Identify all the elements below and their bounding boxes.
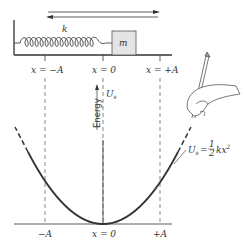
tick-label-neg-A: x = −A — [31, 65, 64, 75]
spring — [14, 37, 112, 46]
tick-label-zero: x = 0 — [92, 65, 116, 75]
curve-extension-left — [15, 127, 28, 152]
mass-label: m — [119, 38, 128, 48]
hand-drawing-icon — [187, 52, 240, 118]
tick-label-pos-A: x = +A — [146, 65, 179, 75]
svg-text:kx2: kx2 — [216, 143, 231, 155]
equation-label: Us = 1 2 kx2 — [188, 139, 231, 158]
curve-label-U: Us — [106, 89, 117, 100]
bottom-label-zero: x = 0 — [92, 229, 116, 239]
bottom-label-pos-A: +A — [153, 229, 168, 239]
spring-energy-diagram: k m x = −A x = 0 x = +A Energy Us Us = 1… — [0, 0, 245, 244]
svg-text:2: 2 — [208, 148, 215, 158]
bottom-label-neg-A: −A — [38, 229, 53, 239]
top-ticks — [45, 55, 160, 61]
svg-text:=: = — [200, 145, 208, 155]
energy-axis-label: Energy — [92, 98, 102, 128]
motion-arrow — [46, 10, 160, 19]
spring-constant-label: k — [62, 24, 67, 34]
svg-text:Us: Us — [188, 145, 199, 156]
